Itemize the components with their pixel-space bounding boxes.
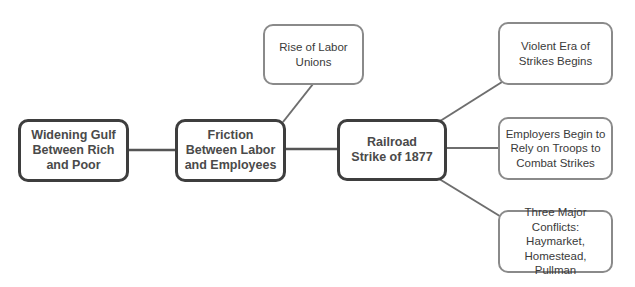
node-label: Friction Between Labor and Employees xyxy=(182,128,279,173)
node-label: Railroad Strike of 1877 xyxy=(350,135,434,165)
node-label: Three Major Conflicts: Haymarket, Homest… xyxy=(504,205,607,278)
node-railroad-strike: Railroad Strike of 1877 xyxy=(337,119,447,181)
node-friction: Friction Between Labor and Employees xyxy=(175,119,286,182)
edge-railroad-conflicts xyxy=(436,177,503,218)
node-labor-unions: Rise of Labor Unions xyxy=(263,24,364,85)
node-widening-gulf: Widening Gulf Between Rich and Poor xyxy=(18,119,129,182)
node-label: Widening Gulf Between Rich and Poor xyxy=(25,128,122,173)
node-label: Employers Begin to Rely on Troops to Com… xyxy=(504,127,607,171)
edge-railroad-violent xyxy=(437,82,502,123)
node-employers-troops: Employers Begin to Rely on Troops to Com… xyxy=(498,117,613,180)
node-three-conflicts: Three Major Conflicts: Haymarket, Homest… xyxy=(498,210,613,273)
node-violent-era: Violent Era of Strikes Begins xyxy=(498,22,613,85)
node-label: Violent Era of Strikes Begins xyxy=(514,39,597,68)
node-label: Rise of Labor Unions xyxy=(277,40,350,69)
edge-friction-unions xyxy=(283,84,313,122)
